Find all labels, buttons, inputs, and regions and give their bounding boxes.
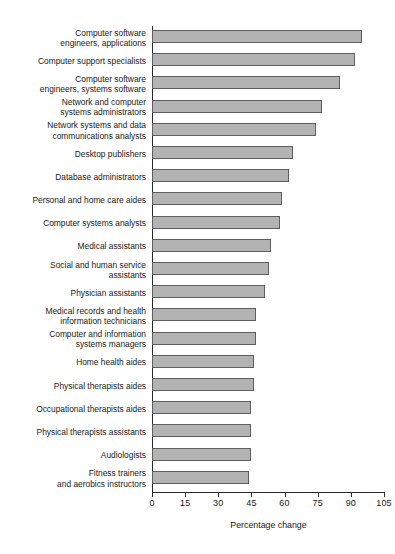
bar-row: Computer and information systems manager… [152,328,384,351]
percentage-change-bar-chart: Computer software engineers, application… [0,0,395,554]
bar-row: Personal and home care aides [152,188,384,211]
x-axis-tick [384,493,385,497]
bar-row: Computer software engineers, application… [152,26,384,49]
bar [152,378,254,391]
bar-category-label: Fitness trainers and aerobics instructor… [0,468,146,488]
bar [152,169,289,182]
bar [152,424,251,437]
bar-category-label: Network systems and data communications … [0,120,146,140]
bar-row: Database administrators [152,165,384,188]
bar-row: Network and computer systems administrat… [152,96,384,119]
bar-category-label: Physical therapists aides [0,380,146,390]
x-axis-tick-label: 75 [312,498,322,508]
bar-row: Fitness trainers and aerobics instructor… [152,467,384,490]
bar-row: Computer systems analysts [152,212,384,235]
bar [152,285,265,298]
x-axis-tick-label: 0 [149,498,154,508]
bar-category-label: Social and human service assistants [0,259,146,279]
bar [152,471,249,484]
bar-category-label: Computer software engineers, application… [0,27,146,47]
bar-category-label: Physical therapists assistants [0,427,146,437]
x-axis-tick [285,493,286,497]
x-axis-tick-label: 45 [246,498,256,508]
bar-row: Physical therapists assistants [152,420,384,443]
bar-category-label: Audiologists [0,450,146,460]
bar-row: Occupational therapists aides [152,397,384,420]
bar [152,448,251,461]
bar-row: Medical records and health information t… [152,304,384,327]
bar-category-label: Medical assistants [0,241,146,251]
bar-row: Physician assistants [152,281,384,304]
x-axis-tick-label: 60 [279,498,289,508]
x-axis-tick-label: 15 [180,498,190,508]
x-axis-tick-label: 30 [213,498,223,508]
bar-category-label: Computer and information systems manager… [0,329,146,349]
bar [152,76,340,89]
bar-category-label: Physician assistants [0,288,146,298]
bar [152,216,280,229]
x-axis-tick [351,493,352,497]
bar-category-label: Occupational therapists aides [0,404,146,414]
bar [152,355,254,368]
bar-category-label: Home health aides [0,357,146,367]
bar-row: Network systems and data communications … [152,119,384,142]
bar [152,53,355,66]
x-axis-tick [251,493,252,497]
x-axis-tick [185,493,186,497]
bar-category-label: Database administrators [0,172,146,182]
bar-category-label: Desktop publishers [0,148,146,158]
x-axis-title: Percentage change [152,520,385,530]
bar-category-label: Medical records and health information t… [0,306,146,326]
bar [152,239,271,252]
x-axis-tick [318,493,319,497]
bar-row: Audiologists [152,444,384,467]
bar-category-label: Computer software engineers, systems sof… [0,74,146,94]
bar-row: Computer software engineers, systems sof… [152,72,384,95]
bar-category-label: Network and computer systems administrat… [0,97,146,117]
bar [152,308,256,321]
bar [152,332,256,345]
bar [152,146,293,159]
bar [152,123,316,136]
x-axis-tick-label: 105 [376,498,392,508]
bar [152,100,322,113]
bar-category-label: Computer systems analysts [0,218,146,228]
bar [152,192,282,205]
bar-row: Computer support specialists [152,49,384,72]
bar-row: Medical assistants [152,235,384,258]
x-axis-tick-label: 90 [346,498,356,508]
bar-row: Desktop publishers [152,142,384,165]
bar [152,262,269,275]
bar-row: Home health aides [152,351,384,374]
plot-area: Computer software engineers, application… [152,26,384,492]
bar-category-label: Computer support specialists [0,56,146,66]
bar [152,30,362,43]
bar-row: Social and human service assistants [152,258,384,281]
bar-category-label: Personal and home care aides [0,195,146,205]
x-axis-tick [218,493,219,497]
bar-row: Physical therapists aides [152,374,384,397]
x-axis-tick [152,493,153,497]
bar [152,401,251,414]
